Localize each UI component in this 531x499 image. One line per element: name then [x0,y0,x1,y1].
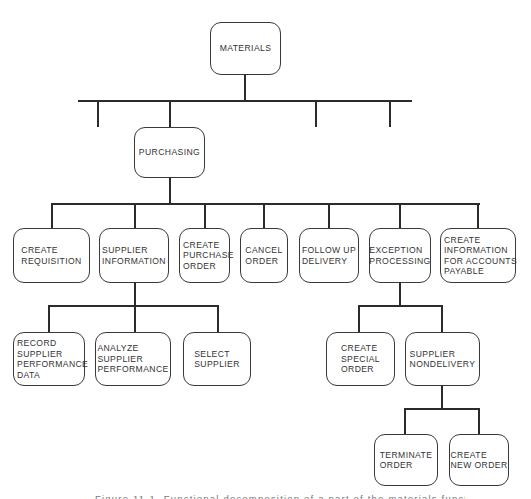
connector [204,203,206,229]
node-label: CREATE INFORMATION FOR ACCOUNTS PAYABLE [444,235,517,277]
connector [48,305,50,333]
node-follow-up-delivery: FOLLOW UP DELIVERY [299,228,359,283]
node-record-supplier-performance-data: RECORD SUPPLIER PERFORMANCE DATA [13,332,85,386]
node-label: RECORD SUPPLIER PERFORMANCE DATA [17,338,88,380]
node-purchasing: PURCHASING [134,127,205,178]
node-label: TERMINATE ORDER [380,450,433,471]
node-label: SELECT SUPPLIER [194,349,240,370]
connector [51,203,480,205]
node-label: CREATE REQUISITION [21,245,81,266]
connector [441,385,443,410]
node-materials: MATERIALS [210,22,281,75]
node-analyze-supplier-performance: ANALYZE SUPPLIER PERFORMANCE [95,332,171,386]
node-select-supplier: SELECT SUPPLIER [183,332,251,386]
connector [478,408,480,435]
connector [217,305,219,333]
connector [134,282,136,307]
node-label: FOLLOW UP DELIVERY [302,245,356,266]
connector [399,203,401,229]
node-label: ANALYZE SUPPLIER PERFORMANCE [97,343,168,375]
node-label: PURCHASING [139,147,200,158]
connector [399,282,401,307]
connector [358,305,443,307]
node-label: CANCEL ORDER [245,245,282,266]
node-label: SUPPLIER NONDELIVERY [410,349,476,370]
connector [404,408,480,410]
node-create-special-order: CREATE SPECIAL ORDER [326,332,395,386]
connector [328,203,330,229]
node-terminate-order: TERMINATE ORDER [374,434,438,486]
node-supplier-information: SUPPLIER INFORMATION [99,228,169,283]
connector [134,203,136,229]
connector [51,203,53,229]
connector [263,203,265,229]
connector-stub [389,100,391,127]
node-label: CREATE NEW ORDER [450,450,507,471]
node-label: MATERIALS [220,43,272,54]
node-create-new-order: CREATE NEW ORDER [449,434,509,486]
connector [78,100,412,102]
connector [169,100,171,128]
node-label: SUPPLIER INFORMATION [102,245,166,266]
node-create-requisition: CREATE REQUISITION [13,228,90,283]
node-cancel-order: CANCEL ORDER [240,228,288,283]
hierarchy-diagram: MATERIALS PURCHASING CREATE REQUISITION … [0,0,531,499]
node-label: CREATE PURCHASE ORDER [183,240,234,272]
node-label: CREATE SPECIAL ORDER [341,343,380,375]
node-create-purchase-order: CREATE PURCHASE ORDER [179,228,230,283]
connector [441,305,443,333]
figure-caption: Figure 11-1. Functional decomposition of… [95,492,465,499]
connector [404,408,406,435]
node-exception-processing: EXCEPTION PROCESSING [369,228,431,283]
connector [244,74,246,102]
connector-stub [315,100,317,127]
node-create-information-accounts-payable: CREATE INFORMATION FOR ACCOUNTS PAYABLE [440,228,516,283]
connector [477,203,479,229]
connector [134,305,136,333]
connector [358,305,360,333]
node-label: EXCEPTION PROCESSING [369,245,430,266]
connector [169,177,171,205]
connector-stub [97,100,99,127]
node-supplier-nondelivery: SUPPLIER NONDELIVERY [405,332,480,386]
